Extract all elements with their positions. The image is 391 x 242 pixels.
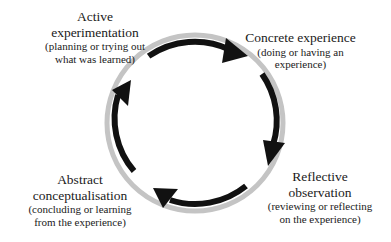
stage-description: (planning or trying out — [20, 40, 170, 53]
stage-title: Reflective — [250, 169, 390, 185]
stage-concrete-experience: Concrete experience (doing or having an … — [218, 30, 383, 71]
stage-title: Concrete experience — [218, 30, 383, 46]
stage-description: what was learned) — [20, 53, 170, 66]
stage-title: observation — [250, 185, 390, 201]
stage-title: Abstract — [6, 172, 154, 188]
learning-cycle-diagram: Active experimentation (planning or tryi… — [0, 0, 391, 242]
stage-active-experimentation: Active experimentation (planning or tryi… — [20, 9, 170, 65]
stage-description: (concluding or learning — [6, 203, 154, 216]
stage-title: conceptualisation — [6, 188, 154, 204]
stage-abstract-conceptualisation: Abstract conceptualisation (concluding o… — [6, 172, 154, 228]
stage-title: Active — [20, 9, 170, 25]
stage-description: from the experience) — [6, 216, 154, 229]
stage-description: (reviewing or reflecting — [250, 200, 390, 213]
stage-reflective-observation: Reflective observation (reviewing or ref… — [250, 169, 390, 225]
stage-description: on the experience) — [250, 213, 390, 226]
stage-description: (doing or having an — [218, 46, 383, 59]
stage-description: experience) — [218, 58, 383, 71]
stage-title: experimentation — [20, 25, 170, 41]
